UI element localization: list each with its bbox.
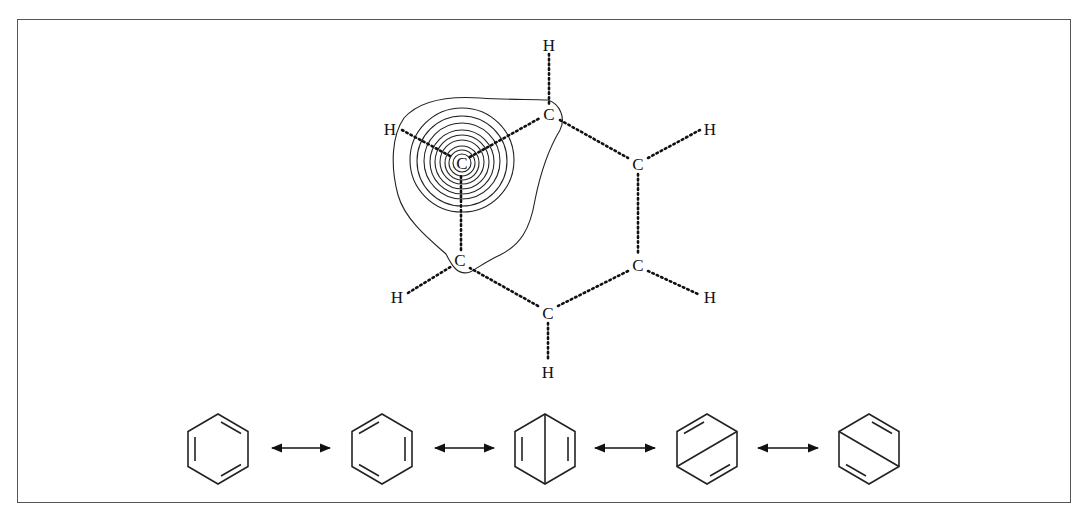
bond-c4-c5: [558, 271, 628, 306]
atom-h3: H: [704, 120, 716, 139]
bond-c4-h4: [648, 271, 700, 295]
kekule-structure-a: [188, 414, 248, 484]
bond-c6-h6: [408, 266, 452, 293]
bond-c2-c3: [560, 120, 628, 158]
dewar-structure-diagonal-rising: [677, 414, 737, 484]
atom-c4: C: [632, 256, 643, 275]
atom-h1: H: [384, 120, 396, 139]
bond-c5-c6: [470, 268, 538, 306]
atom-c1: C: [456, 154, 467, 173]
dewar-structure-vertical: [515, 414, 575, 484]
bond-c1-h1: [402, 130, 452, 157]
atom-c2: C: [543, 105, 554, 124]
bond-c1-c2: [470, 118, 540, 157]
resonance-structures: [188, 414, 899, 484]
atom-h5: H: [542, 363, 554, 382]
atom-c6: C: [454, 251, 465, 270]
atom-h6: H: [391, 288, 403, 307]
atom-h4: H: [704, 288, 716, 307]
atom-h2: H: [543, 36, 555, 55]
kekule-structure-b: [352, 414, 412, 484]
bond-c3-h3: [648, 130, 700, 158]
dewar-structure-diagonal-falling: [839, 414, 899, 484]
atom-c5: C: [542, 304, 553, 323]
atom-c3: C: [632, 155, 643, 174]
outer-density-contour: [393, 98, 562, 273]
benzene-figure: C C C C C C H H H H H H: [0, 0, 1086, 513]
electron-density-contours: [393, 98, 562, 273]
